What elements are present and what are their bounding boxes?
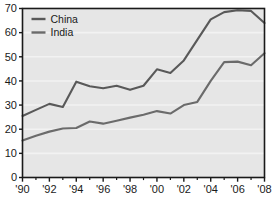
x-tick-label: '98 <box>123 183 137 195</box>
chart-canvas: 010203040506070 '90'92'94'96'98'00'02'04… <box>0 0 275 200</box>
x-tick-label: '90 <box>15 183 29 195</box>
legend-label-india: India <box>51 26 74 38</box>
x-tick-label: '02 <box>177 183 191 195</box>
x-tick-label: '04 <box>204 183 218 195</box>
x-tick-label: '96 <box>96 183 110 195</box>
y-tick-label: 50 <box>5 51 17 63</box>
x-tick-label: '94 <box>69 183 83 195</box>
y-tick-label: 0 <box>11 171 17 183</box>
y-tick-label: 20 <box>5 123 17 135</box>
y-axis: 010203040506070 <box>5 2 23 183</box>
x-axis: '90'92'94'96'98'00'02'04'06'08 <box>15 178 271 195</box>
y-tick-label: 60 <box>5 26 17 38</box>
y-tick-label: 30 <box>5 99 17 111</box>
legend-label-china: China <box>51 13 79 25</box>
x-tick-label: '92 <box>42 183 56 195</box>
y-tick-label: 10 <box>5 147 17 159</box>
x-tick-label: '08 <box>257 183 271 195</box>
y-tick-label: 70 <box>5 2 17 14</box>
x-tick-label: '00 <box>150 183 164 195</box>
y-tick-label: 40 <box>5 75 17 87</box>
x-tick-label: '06 <box>230 183 244 195</box>
line-chart: 010203040506070 '90'92'94'96'98'00'02'04… <box>0 0 275 200</box>
